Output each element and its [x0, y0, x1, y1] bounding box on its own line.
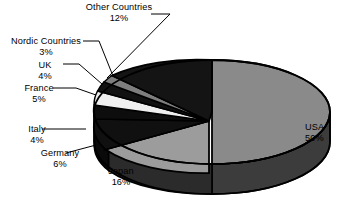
- slice-label-percent-uk: 4%: [14, 71, 76, 82]
- slice-label-name-japan: Japan: [92, 166, 150, 177]
- slice-label-germany: Germany 6%: [22, 148, 98, 169]
- slice-label-name-usa: USA: [305, 122, 345, 133]
- slice-label-italy: Italy 4%: [6, 124, 68, 145]
- slice-label-name-uk: UK: [14, 60, 76, 71]
- slice-label-percent-nordic: 3%: [0, 47, 92, 58]
- slice-label-name-france: France: [4, 83, 74, 94]
- slice-label-percent-germany: 6%: [22, 159, 98, 170]
- slice-label-percent-italy: 4%: [6, 135, 68, 146]
- slice-label-name-other: Other Countries: [60, 2, 178, 13]
- slice-label-uk: UK 4%: [14, 60, 76, 81]
- slice-label-name-nordic: Nordic Countries: [0, 36, 92, 47]
- slice-label-percent-usa: 50%: [305, 133, 345, 144]
- slice-label-percent-france: 5%: [4, 94, 74, 105]
- slice-label-name-germany: Germany: [22, 148, 98, 159]
- slice-label-name-italy: Italy: [6, 124, 68, 135]
- slice-label-france: France 5%: [4, 83, 74, 104]
- slice-label-other-countries: Other Countries 12%: [60, 2, 178, 23]
- pie-chart-figure: Other Countries 12% Nordic Countries 3% …: [0, 0, 347, 200]
- slice-label-percent-japan: 16%: [92, 177, 150, 188]
- slice-label-nordic-countries: Nordic Countries 3%: [0, 36, 92, 57]
- slice-label-percent-other: 12%: [60, 13, 178, 24]
- slice-label-japan: Japan 16%: [92, 166, 150, 187]
- slice-label-usa: USA 50%: [305, 122, 345, 143]
